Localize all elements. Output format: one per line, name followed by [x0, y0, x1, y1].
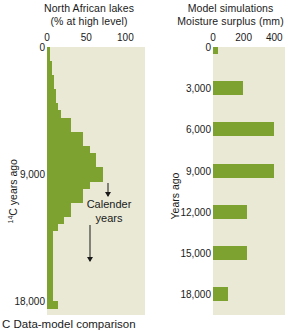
calender-years-annotation: Calender years — [72, 197, 146, 225]
arrow-shaft — [89, 225, 90, 261]
left-chart-title-line1: North African lakes — [14, 2, 164, 15]
figure-panel-c: North African lakes (% at high level) 05… — [0, 0, 303, 331]
x-tick-label: 50 — [81, 31, 92, 45]
moisture-surplus-bar — [213, 205, 247, 219]
right-chart-title-line1: Model simulations — [158, 2, 303, 15]
moisture-surplus-bar — [213, 164, 274, 178]
y-tick-label: 15,000 — [180, 248, 211, 259]
moisture-surplus-bar — [213, 81, 243, 95]
y-tick-label: 0 — [205, 42, 211, 53]
right-chart-title-line2: Moisture surplus (mm) — [158, 15, 303, 28]
moisture-surplus-bar — [213, 287, 228, 301]
moisture-surplus-bar — [213, 47, 218, 54]
left-chart-y-axis-title: 14C years ago — [7, 155, 20, 227]
annotation-arrow-down — [86, 225, 93, 261]
x-tick-label: 400 — [266, 31, 283, 45]
left-chart-title: North African lakes (% at high level) — [14, 2, 164, 27]
y-tick-label: 6,000 — [186, 124, 211, 135]
right-chart-y-axis-title: Years ago — [169, 160, 181, 232]
annotation-line1: Calender — [72, 197, 146, 211]
left-chart-x-axis: 050100 — [47, 31, 145, 45]
y-tick-label: 9,000 — [186, 165, 211, 176]
y-tick-label: 12,000 — [180, 206, 211, 217]
arrow-head — [87, 257, 93, 262]
right-chart-plot-area — [213, 47, 285, 315]
x-tick-label: 100 — [117, 31, 134, 45]
y-tick-label: 3,000 — [186, 83, 211, 94]
figure-caption: C Data-model comparison — [2, 318, 302, 331]
left-y-axis-superscript: 14 — [7, 216, 14, 224]
y-tick-label: 18,000 — [14, 295, 45, 306]
annotation-arrow-up — [104, 183, 111, 196]
moisture-surplus-bar — [213, 246, 247, 260]
moisture-surplus-bar — [213, 122, 274, 136]
arrow-head — [105, 192, 111, 197]
annotation-line2: years — [72, 211, 146, 225]
y-tick-label: 18,000 — [180, 289, 211, 300]
right-chart-y-axis: 03,0006,0009,00012,00015,00018,000 — [160, 47, 211, 315]
left-chart-title-line2: (% at high level) — [14, 15, 164, 28]
y-tick-label: 9,000 — [20, 168, 45, 179]
right-chart-title: Model simulations Moisture surplus (mm) — [158, 2, 303, 27]
x-tick-label: 200 — [235, 31, 252, 45]
y-tick-label: 0 — [39, 42, 45, 53]
left-y-axis-title-text: C years ago — [7, 159, 19, 216]
left-chart-plot-area — [47, 47, 145, 315]
right-chart-x-axis: 0200400 — [213, 31, 285, 45]
lake-level-step — [47, 301, 58, 309]
